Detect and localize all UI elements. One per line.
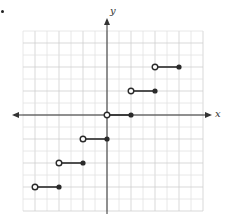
x-axis-arrow-left-icon: [12, 112, 19, 118]
open-endpoint-circle: [32, 184, 38, 190]
y-axis-label: y: [110, 6, 116, 16]
open-endpoint-circle: [56, 160, 62, 166]
step-function-graph: y x: [0, 0, 227, 214]
open-endpoint-circle: [80, 136, 86, 142]
open-endpoint-circle: [104, 112, 110, 118]
closed-endpoint-dot: [128, 112, 133, 117]
x-axis-arrow-right-icon: [205, 112, 212, 118]
closed-endpoint-dot: [152, 88, 157, 93]
closed-endpoint-dot: [56, 184, 61, 189]
plot-area: [0, 0, 227, 214]
y-axis-arrow-up-icon: [104, 18, 110, 25]
open-endpoint-circle: [152, 64, 158, 70]
closed-endpoint-dot: [80, 160, 85, 165]
open-endpoint-circle: [128, 88, 134, 94]
x-axis-label: x: [215, 109, 221, 119]
closed-endpoint-dot: [176, 64, 181, 69]
closed-endpoint-dot: [104, 136, 109, 141]
